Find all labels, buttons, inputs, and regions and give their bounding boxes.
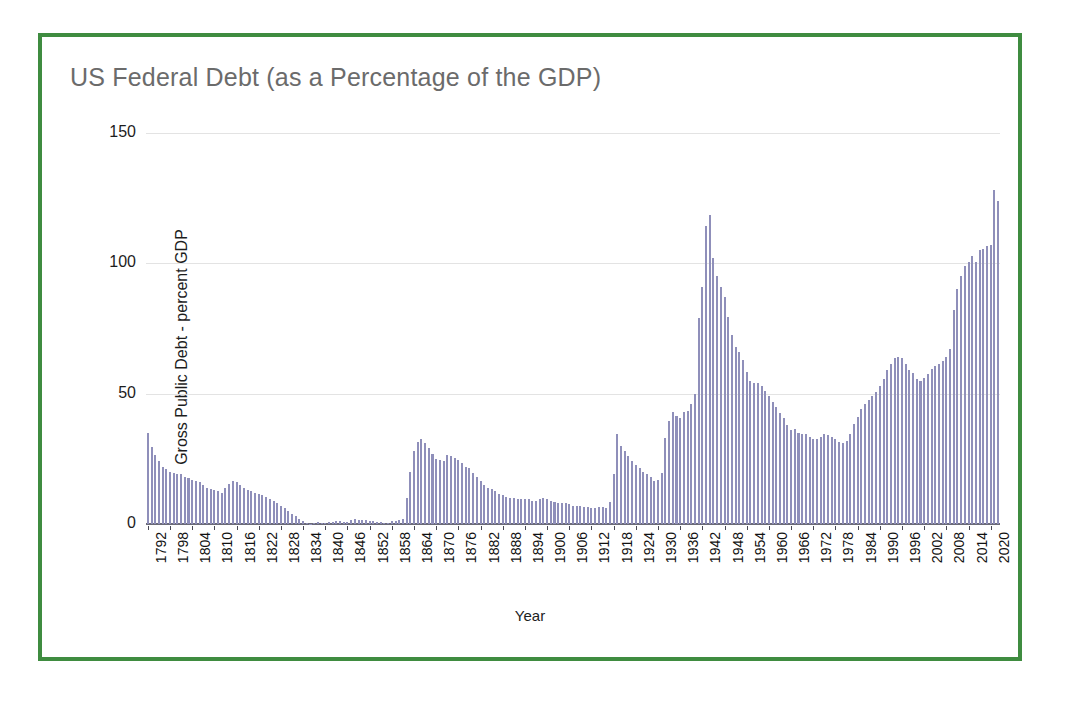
x-tick-mark [392,526,393,530]
bar [993,190,995,524]
bar [646,474,648,524]
x-axis-title: Year [42,607,1018,624]
bar [284,508,286,524]
bar [295,516,297,524]
bar [823,434,825,524]
bar [298,519,300,524]
bar [945,357,947,524]
x-tick-mark [170,526,171,530]
bar [949,349,951,524]
bar [309,524,311,525]
bar [176,474,178,524]
x-tick-mark [237,526,238,530]
bar [576,506,578,524]
bar [358,520,360,524]
bar [879,386,881,524]
bar [339,521,341,524]
bar [605,508,607,524]
x-tick-label-1978: 1978 [840,532,856,563]
chart-title: US Federal Debt (as a Percentage of the … [70,63,601,92]
bar [742,360,744,524]
bar [583,507,585,524]
x-tick-mark [725,526,726,530]
x-tick-label-1846: 1846 [352,532,368,563]
bar [568,504,570,524]
bar [579,506,581,524]
bar [213,490,215,524]
bar [672,412,674,524]
bar [960,276,962,524]
x-tick-label-1894: 1894 [530,532,546,563]
bar [505,497,507,524]
bar [158,461,160,524]
bar [402,519,404,524]
bar [794,429,796,524]
x-tick-mark [214,526,215,530]
bar [650,477,652,524]
bar [687,411,689,524]
bar [757,383,759,524]
bar [291,514,293,524]
bar [243,488,245,524]
bar [572,506,574,524]
bar [738,352,740,524]
bar [779,413,781,524]
bar [894,358,896,524]
bar [724,297,726,524]
bar [679,418,681,524]
x-tick-mark [969,526,970,530]
bar [180,474,182,524]
bar [210,489,212,524]
bar [775,407,777,524]
x-tick-label-1972: 1972 [818,532,834,563]
bar [883,379,885,524]
bar [391,521,393,524]
bar [587,507,589,524]
bar [354,519,356,524]
bar [938,364,940,524]
bar [916,379,918,524]
bar-series [146,133,1000,524]
x-tick-label-1930: 1930 [663,532,679,563]
bar [971,256,973,524]
bar [868,400,870,524]
bar [716,276,718,524]
bar [332,522,334,524]
x-tick-mark [991,526,992,530]
bar [476,477,478,524]
x-tick-label-1876: 1876 [463,532,479,563]
bar [565,503,567,524]
bar [683,412,685,524]
bar [280,506,282,524]
bar [361,520,363,524]
bar [276,503,278,524]
bar [535,501,537,524]
x-tick-mark [325,526,326,530]
bar [446,455,448,524]
bar [613,474,615,524]
bar [901,358,903,524]
bar [661,473,663,524]
bar [827,435,829,524]
x-tick-label-2020: 2020 [996,532,1012,563]
bar [720,287,722,524]
bar [731,335,733,524]
x-tick-mark [569,526,570,530]
bar [383,523,385,524]
bar [931,369,933,524]
bar [387,523,389,524]
bar [395,521,397,524]
x-tick-label-1996: 1996 [907,532,923,563]
x-tick-mark [946,526,947,530]
bar [956,289,958,524]
bar [639,468,641,524]
bar [897,357,899,524]
x-tick-label-1810: 1810 [219,532,235,563]
bar [783,418,785,524]
bar [232,481,234,524]
bar [953,310,955,524]
bar [428,448,430,524]
x-tick-mark [436,526,437,530]
bar [705,226,707,524]
bar [539,499,541,524]
